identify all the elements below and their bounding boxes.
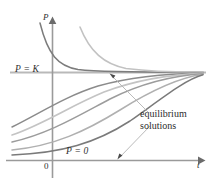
annotation-equilibrium-solutions: equilibrium solutions [140, 108, 187, 131]
x-axis-label: t [197, 160, 200, 170]
p-axis-arrowhead [49, 17, 57, 25]
origin-label: 0 [44, 161, 49, 171]
annotation-line-1: equilibrium [140, 108, 187, 120]
pointer-arrowhead-to-PK [110, 73, 116, 78]
solution-curve-decay-2 [80, 27, 203, 72]
pointer-arrowhead-to-P0 [117, 154, 122, 160]
equilibrium-label-P0: P = 0 [66, 146, 89, 156]
equilibrium-label-PK: P = K [15, 64, 39, 74]
plot-canvas [0, 0, 208, 184]
annotation-line-2: solutions [140, 120, 187, 132]
logistic-curves-figure: P t 0 P = K P = 0 equilibrium solutions [0, 0, 208, 184]
solution-curve-decay-1 [40, 23, 203, 72]
y-axis-label: P [43, 12, 49, 22]
